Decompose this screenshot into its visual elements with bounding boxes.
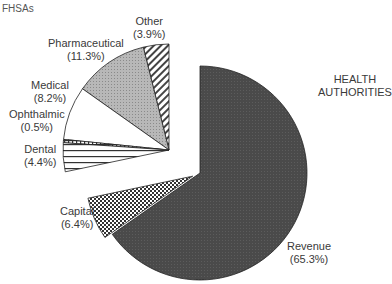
ha-title-line2: AUTHORITIES (318, 86, 392, 99)
label-medical: Medical (8.2%) (31, 79, 69, 105)
label-pharma-pct: (11.3%) (48, 50, 124, 63)
label-medical-pct: (8.2%) (31, 92, 69, 105)
fhsas-title: FHSAs (2, 3, 34, 14)
label-dental-pct: (4.4%) (24, 156, 56, 169)
ha-title-line1: HEALTH (318, 73, 392, 86)
label-medical-name: Medical (31, 79, 69, 92)
health-authorities-title: HEALTH AUTHORITIES (318, 73, 392, 99)
label-pharmaceutical: Pharmaceutical (11.3%) (48, 37, 124, 63)
label-revenue-name: Revenue (287, 240, 331, 253)
label-capital: Capital (6.4%) (60, 205, 94, 231)
label-other: Other (3.9%) (133, 15, 165, 41)
fhsas-pie (63, 44, 169, 172)
label-pharma-name: Pharmaceutical (48, 37, 124, 50)
label-dental-name: Dental (24, 143, 56, 156)
label-revenue-pct: (65.3%) (287, 253, 331, 266)
label-ophthalmic-name: Ophthalmic (9, 108, 65, 121)
label-other-name: Other (133, 15, 165, 28)
label-capital-name: Capital (60, 205, 94, 218)
label-other-pct: (3.9%) (133, 28, 165, 41)
label-revenue: Revenue (65.3%) (287, 240, 331, 266)
label-dental: Dental (4.4%) (24, 143, 56, 169)
label-ophthalmic-pct: (0.5%) (9, 121, 65, 134)
label-capital-pct: (6.4%) (60, 218, 94, 231)
label-ophthalmic: Ophthalmic (0.5%) (9, 108, 65, 134)
